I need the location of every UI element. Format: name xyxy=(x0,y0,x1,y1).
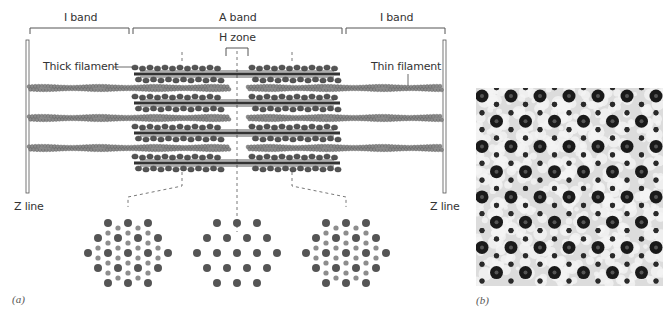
thin-filament-dot xyxy=(333,275,338,280)
thin-filament-dot xyxy=(353,255,358,260)
thin-filament-dot xyxy=(373,255,378,260)
thick-filament-dot xyxy=(372,234,380,242)
z-line-right-label: Z line xyxy=(430,200,460,213)
thick-filament-dot xyxy=(342,279,350,287)
micrograph-thick-filament xyxy=(490,266,503,279)
thin-filament-dot xyxy=(135,225,140,230)
thick-filament-dot xyxy=(233,279,241,287)
micrograph-thick-filament xyxy=(505,190,518,203)
thick-filament-dot xyxy=(362,219,370,227)
cross-section-h-zone xyxy=(193,219,281,287)
thick-filament-dot xyxy=(233,219,241,227)
thick-filament-dot xyxy=(124,249,132,257)
cross-section-overlap xyxy=(302,219,390,287)
micrograph-thick-filament xyxy=(476,190,489,203)
micrograph-thick-filament xyxy=(650,190,663,203)
thin-filament-dot xyxy=(135,255,140,260)
micrograph-thick-filament xyxy=(519,216,532,229)
thin-filament-dot xyxy=(323,270,328,275)
micrograph-thick-filament xyxy=(592,140,605,153)
thick-filament-dot xyxy=(193,249,201,257)
thick-filament-dot xyxy=(134,234,142,242)
micrograph-thick-filament xyxy=(635,115,648,128)
thin-filament-dot xyxy=(343,270,348,275)
thick-filament-dot xyxy=(263,264,271,272)
thin-filament-dot xyxy=(333,245,338,250)
thin-filament-dot xyxy=(95,255,100,260)
micrograph-thick-filament xyxy=(592,241,605,254)
micrograph-thick-filament xyxy=(650,241,663,254)
thin-filament-dot xyxy=(105,230,110,235)
thin-filament-dot xyxy=(155,245,160,250)
micrograph-thick-filament xyxy=(606,216,619,229)
thin-filament-dot xyxy=(333,225,338,230)
micrograph-thick-filament xyxy=(577,216,590,229)
thick-filament-dot xyxy=(332,234,340,242)
thick-filament-dot xyxy=(253,279,261,287)
thick-filament-dot xyxy=(253,219,261,227)
thick-filament-dot xyxy=(382,249,390,257)
guide-right-bottom xyxy=(292,172,346,207)
cross-sections xyxy=(84,219,390,287)
micrograph-thick-filament xyxy=(534,190,547,203)
micrograph-thick-filament xyxy=(606,165,619,178)
thin-filament-dot xyxy=(115,255,120,260)
thick-filament-dot xyxy=(322,219,330,227)
thick-filament-dot xyxy=(352,234,360,242)
micrograph-thick-filament xyxy=(519,266,532,279)
thin-filament-dot xyxy=(323,240,328,245)
thin-filament-dot xyxy=(105,260,110,265)
thin-filament-dot xyxy=(363,260,368,265)
thin-filament-dot xyxy=(363,240,368,245)
i-band-left-label: I band xyxy=(64,11,97,24)
thick-filament-dot xyxy=(342,219,350,227)
micrograph-thick-filament xyxy=(650,140,663,153)
thick-filament-dot xyxy=(372,264,380,272)
micrograph-thick-filament xyxy=(548,115,561,128)
thick-filament-dot xyxy=(302,249,310,257)
micrograph-thick-filament xyxy=(490,165,503,178)
thick-filament-dot xyxy=(243,234,251,242)
thick-filament-dot xyxy=(84,249,92,257)
micrograph-thick-filament xyxy=(650,90,663,103)
thin-filament-dot xyxy=(313,245,318,250)
a-band-label: A band xyxy=(219,11,257,24)
thin-filament-dot xyxy=(343,240,348,245)
micrograph-thick-filament xyxy=(563,190,576,203)
micrograph-thick-filament xyxy=(476,140,489,153)
thin-filament-dot xyxy=(155,255,160,260)
thin-filament xyxy=(27,144,443,152)
thick-filament-dot xyxy=(213,219,221,227)
thick-filament-dot xyxy=(312,234,320,242)
thick-filament xyxy=(132,65,341,83)
thick-filament-dot xyxy=(154,234,162,242)
panel-a-label: (a) xyxy=(12,293,25,305)
thick-filament-dot xyxy=(362,279,370,287)
thin-filament-dot xyxy=(125,240,130,245)
thick-filament-dot xyxy=(164,249,172,257)
thick-filament xyxy=(132,94,341,112)
thin-filament-dot xyxy=(333,255,338,260)
thin-filament-dot xyxy=(373,245,378,250)
thick-filament-dot xyxy=(362,249,370,257)
guide-left-bottom xyxy=(128,172,182,207)
micrograph-thick-filament xyxy=(635,216,648,229)
micrograph-thick-filament xyxy=(563,90,576,103)
micrograph-thick-filament xyxy=(534,241,547,254)
thick-filament-dot xyxy=(273,249,281,257)
thick-filament-dot xyxy=(203,234,211,242)
thin-filament-dot xyxy=(145,240,150,245)
thick-filament-dot xyxy=(94,234,102,242)
thick-filament-dot xyxy=(223,264,231,272)
thin-filament-dot xyxy=(135,275,140,280)
thin-filament-dot xyxy=(105,240,110,245)
thick-filament xyxy=(132,154,341,172)
thin-filament-dot xyxy=(353,225,358,230)
thin-filament-dot xyxy=(125,270,130,275)
thick-filament-dot xyxy=(134,264,142,272)
micrograph-thick-filament xyxy=(519,165,532,178)
thin-filament-label: Thin filament xyxy=(371,60,441,73)
micrograph-thick-filament xyxy=(577,266,590,279)
micrograph-thick-filament xyxy=(505,140,518,153)
panel-b-label: (b) xyxy=(476,294,489,306)
